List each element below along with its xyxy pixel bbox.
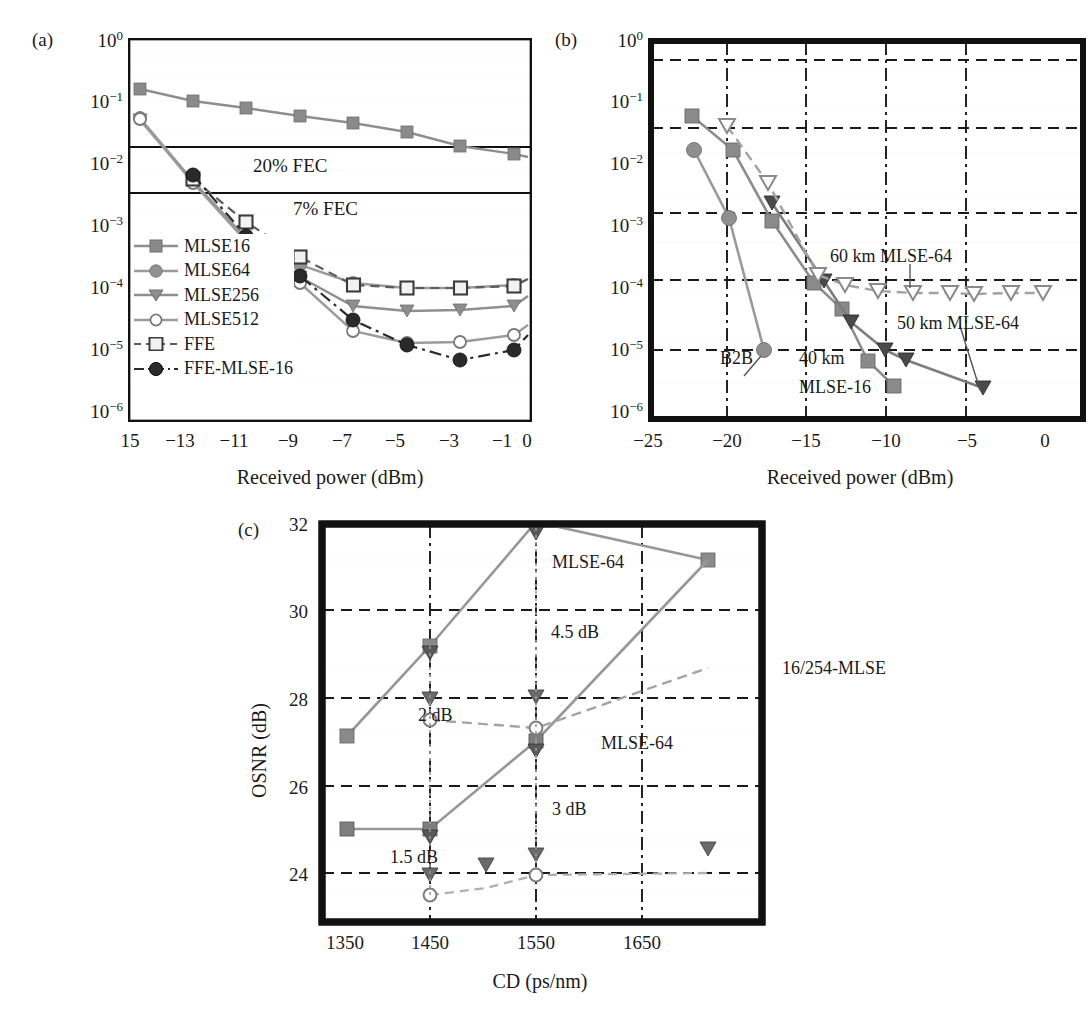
panel-a-xtick-2: −11 xyxy=(212,430,256,452)
panel-b-xtick-4: −5 xyxy=(945,430,989,452)
legend-item-ffe[interactable]: FFE xyxy=(134,332,294,357)
panel-a-xtick-1: −13 xyxy=(158,430,202,452)
legend-marker-square-filled xyxy=(134,239,178,253)
legend-item-mlse64[interactable]: MLSE64 xyxy=(134,259,294,284)
panel-a-annotation-20pct-fec: 20% FEC xyxy=(253,155,327,177)
legend-label: MLSE16 xyxy=(184,236,250,257)
panel-a-xtick-8: 0 xyxy=(512,430,542,452)
panel-b-ytick-3: 10−3 xyxy=(575,213,643,237)
panel-b-annotation-60km: 60 km MLSE-64 xyxy=(830,246,952,267)
panel-b-ytick-6: 10−6 xyxy=(575,399,643,423)
figure-root: (a) 100 10−1 10−2 10−3 10−4 10−5 10−6 xyxy=(0,0,1088,1028)
panel-c-ytick-1: 30 xyxy=(262,601,308,623)
panel-b-xtick-0: −25 xyxy=(626,430,670,452)
panel-b-ytick-1: 10−1 xyxy=(575,89,643,113)
legend-marker-triangle-down xyxy=(134,288,178,302)
panel-b-xtick-2: −15 xyxy=(784,430,828,452)
legend-item-mlse512[interactable]: MLSE512 xyxy=(134,308,294,333)
panel-a-legend: MLSE16 MLSE64 MLSE256 MLSE512 xyxy=(134,234,294,390)
panel-c-annotation-mlse64-upper: MLSE-64 xyxy=(552,552,624,573)
panel-c-xtick-3: 1650 xyxy=(610,932,674,954)
panel-a-ytick-4: 10−4 xyxy=(55,275,123,299)
panel-a-xtick-0: 15 xyxy=(108,430,152,452)
panel-a-xaxis-label: Received power (dBm) xyxy=(150,466,510,489)
legend-label: MLSE256 xyxy=(184,285,259,306)
panel-a-xtick-6: −3 xyxy=(427,430,471,452)
panel-b-plot xyxy=(648,38,1086,422)
panel-c-plot xyxy=(318,520,766,926)
panel-c-xtick-2: 1550 xyxy=(504,932,568,954)
panel-c-annotation-1p5db: 1.5 dB xyxy=(390,847,438,868)
legend-label: FFE xyxy=(184,334,215,355)
panel-a: (a) 100 10−1 10−2 10−3 10−4 10−5 10−6 xyxy=(0,0,545,500)
panel-c-annotation-16-254-mlse: 16/254-MLSE xyxy=(782,658,886,679)
legend-label: FFE-MLSE-16 xyxy=(184,358,293,379)
panel-c-annotation-2db: 2 dB xyxy=(418,705,453,726)
panel-a-annotation-7pct-fec: 7% FEC xyxy=(293,198,358,220)
legend-item-mlse16[interactable]: MLSE16 xyxy=(134,234,294,259)
panel-b-tag: (b) xyxy=(555,29,577,51)
panel-b-xtick-1: −20 xyxy=(705,430,749,452)
legend-label: MLSE64 xyxy=(184,260,250,281)
legend-item-ffe-mlse-16[interactable]: FFE-MLSE-16 xyxy=(134,357,294,382)
legend-marker-circle-filled-dark xyxy=(134,362,178,376)
panel-b-xtick-5: 0 xyxy=(1023,430,1067,452)
panel-b-annotation-50km: 50 km MLSE-64 xyxy=(897,313,1019,334)
panel-a-xtick-3: −9 xyxy=(266,430,310,452)
panel-a-xtick-4: −7 xyxy=(320,430,364,452)
panel-c-annotation-mlse64-mid: MLSE-64 xyxy=(601,733,673,754)
panel-c-ytick-0: 32 xyxy=(262,514,308,536)
panel-c-xtick-1: 1450 xyxy=(398,932,462,954)
legend-marker-circle-filled xyxy=(134,264,178,278)
panel-a-ytick-1: 10−1 xyxy=(55,89,123,113)
panel-c-ytick-2: 28 xyxy=(262,689,308,711)
panel-a-ytick-6: 10−6 xyxy=(55,399,123,423)
panel-a-ytick-5: 10−5 xyxy=(55,337,123,361)
panel-c: (c) OSNR (dB) 32 30 28 26 24 xyxy=(0,500,1088,1028)
panel-b-xaxis-label: Received power (dBm) xyxy=(680,466,1040,489)
panel-c-annotation-4p5db: 4.5 dB xyxy=(551,622,599,643)
panel-c-ytick-3: 26 xyxy=(262,777,308,799)
panel-b: (b) 100 10−1 10−2 10−3 10−4 10−5 10−6 xyxy=(545,0,1088,500)
panel-a-ytick-0: 100 xyxy=(55,28,123,52)
panel-b-annotation-mlse16: MLSE-16 xyxy=(799,377,871,398)
panel-b-ytick-0: 100 xyxy=(575,28,643,52)
panel-b-annotation-40km: 40 km xyxy=(799,348,845,369)
legend-marker-square-open xyxy=(134,337,178,351)
panel-b-annotation-b2b: B2B xyxy=(720,348,753,369)
panel-b-ytick-4: 10−4 xyxy=(575,275,643,299)
legend-marker-circle-open xyxy=(134,313,178,327)
panel-c-tag: (c) xyxy=(238,519,259,541)
panel-c-xtick-0: 1350 xyxy=(313,932,377,954)
panel-a-tag: (a) xyxy=(32,29,53,51)
panel-c-xaxis-label: CD (ps/nm) xyxy=(390,970,690,993)
panel-b-ytick-2: 10−2 xyxy=(575,151,643,175)
panel-c-annotation-3db: 3 dB xyxy=(552,799,587,820)
panel-b-ytick-5: 10−5 xyxy=(575,337,643,361)
legend-item-mlse256[interactable]: MLSE256 xyxy=(134,283,294,308)
panel-a-ytick-2: 10−2 xyxy=(55,151,123,175)
panel-a-xtick-5: −5 xyxy=(373,430,417,452)
panel-b-xtick-3: −10 xyxy=(864,430,908,452)
legend-label: MLSE512 xyxy=(184,309,259,330)
panel-a-ytick-3: 10−3 xyxy=(55,213,123,237)
panel-c-ytick-4: 24 xyxy=(262,864,308,886)
